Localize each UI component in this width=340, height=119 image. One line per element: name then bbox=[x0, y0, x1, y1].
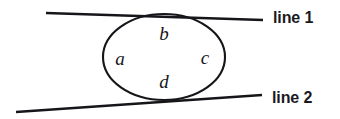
diagram-strokes bbox=[16, 13, 263, 112]
angle-label-c: c bbox=[201, 48, 209, 67]
angle-label-d: d bbox=[159, 72, 169, 91]
geometry-diagram-figure: a b c d line 1 line 2 bbox=[0, 0, 340, 119]
line-2-label: line 2 bbox=[272, 90, 312, 106]
angle-label-b: b bbox=[159, 24, 169, 43]
angle-label-a: a bbox=[115, 49, 125, 68]
line-1-label: line 1 bbox=[273, 10, 313, 26]
line-2-stroke bbox=[16, 95, 262, 112]
